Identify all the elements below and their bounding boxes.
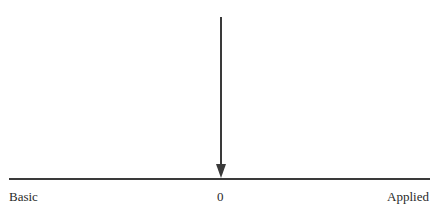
axis-label-basic: Basic xyxy=(9,189,38,205)
axis-label-zero: 0 xyxy=(217,189,224,205)
arrow-shaft xyxy=(220,17,222,167)
horizontal-axis-line xyxy=(9,178,430,180)
axis-label-applied: Applied xyxy=(387,189,429,205)
arrow-down-icon xyxy=(216,164,226,178)
